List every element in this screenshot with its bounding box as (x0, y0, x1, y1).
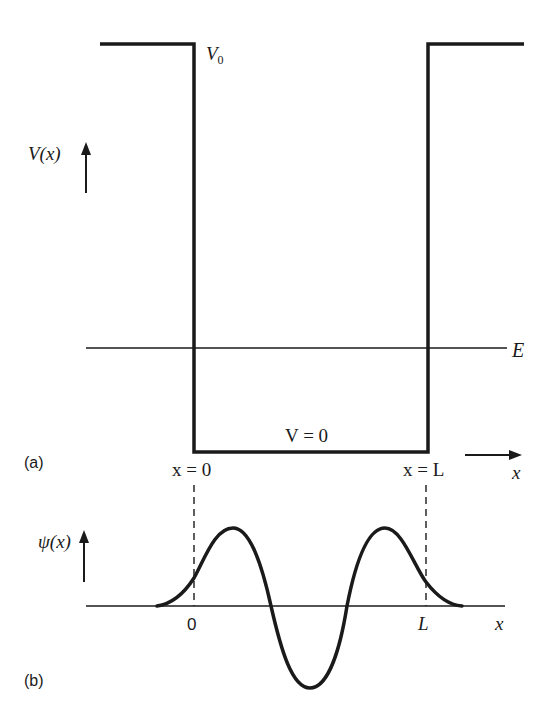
well-floor-label: V = 0 (285, 425, 328, 446)
x-axis-label-a: x (511, 462, 521, 483)
right-wall-label: x = L (403, 459, 444, 480)
wavefunction-axis-label: ψ(x) (38, 531, 71, 553)
potential-profile (100, 44, 524, 452)
panel-a-label: (a) (24, 454, 44, 471)
barrier-height-label: V0 (206, 43, 224, 67)
wavefunction-curve (157, 528, 462, 688)
left-wall-label: x = 0 (172, 459, 211, 480)
wavefunction-panel: ψ(x) 0 L x (b) (24, 528, 505, 689)
x-axis-label-b: x (494, 613, 504, 634)
origin-tick-label: 0 (187, 615, 196, 634)
potential-well-panel: V0 V(x) E V = 0 x = 0 x = L x (a) (24, 43, 524, 483)
finite-square-well-diagram: V0 V(x) E V = 0 x = 0 x = L x (a) (0, 0, 555, 717)
energy-label: E (511, 339, 524, 361)
potential-axis-label: V(x) (28, 143, 61, 165)
panel-b-label: (b) (24, 672, 44, 689)
up-arrow-icon (81, 142, 91, 193)
up-arrow-icon (79, 530, 89, 582)
right-arrow-icon (465, 450, 522, 460)
L-tick-label: L (417, 613, 429, 634)
